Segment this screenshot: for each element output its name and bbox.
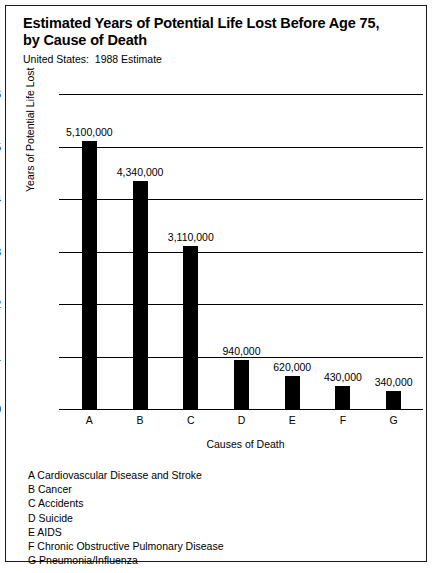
gridline [68, 147, 423, 148]
y-tick-mark [59, 199, 68, 200]
x-tick-label-b: B [137, 415, 144, 426]
y-tick-label: 6 [0, 89, 1, 99]
y-tick-mark [59, 304, 68, 305]
x-tick-label-f: F [340, 415, 346, 426]
y-tick-label: 3 [0, 247, 1, 257]
gridline [68, 94, 423, 95]
bar-c [183, 246, 198, 409]
x-axis-title: Causes of Death [68, 438, 423, 450]
x-tick-label-d: D [238, 415, 246, 426]
gridline [68, 199, 423, 200]
legend-item-a: A Cardiovascular Disease and Stroke [28, 468, 408, 482]
bar-f [335, 386, 350, 409]
gridline [68, 252, 423, 253]
legend-item-b: B Cancer [28, 482, 408, 496]
x-tick-label-c: C [187, 415, 195, 426]
bar-value-label: 5,100,000 [66, 127, 113, 138]
y-axis-title: Years of Potential Life Lost [24, 67, 36, 192]
y-tick-label: 5 [0, 142, 1, 152]
page-title: Estimated Years of Potential Life Lost B… [23, 15, 415, 49]
bar-a [82, 141, 97, 409]
y-tick-label: 4 [0, 194, 1, 204]
legend-item-f: F Chronic Obstructive Pulmonary Disease [28, 539, 408, 553]
bar-g [386, 391, 401, 409]
plot-area: 01234565,100,000A4,340,000B3,110,000C940… [68, 94, 423, 409]
x-axis-line [68, 409, 423, 410]
y-tick-mark [59, 94, 68, 95]
y-tick-label: 2 [0, 299, 1, 309]
gridline [68, 304, 423, 305]
y-tick-mark [59, 357, 68, 358]
legend-item-g: G Pneumonia/Influenza [28, 553, 408, 567]
bar-value-label: 4,340,000 [117, 167, 164, 178]
legend-item-d: D Suicide [28, 511, 408, 525]
bar-value-label: 340,000 [375, 377, 413, 388]
bar-value-label: 3,110,000 [168, 232, 214, 243]
bar-e [285, 376, 300, 409]
gridline [68, 357, 423, 358]
bar-d [234, 360, 249, 409]
chart-figure: Estimated Years of Potential Life Lost B… [5, 5, 427, 562]
x-tick-label-g: G [390, 415, 398, 426]
chart-header: Estimated Years of Potential Life Lost B… [23, 15, 415, 65]
y-tick-label: 1 [0, 352, 1, 362]
legend-item-c: C Accidents [28, 496, 408, 510]
y-tick-label: 0 [0, 404, 1, 414]
bar-value-label: 940,000 [223, 346, 261, 357]
y-tick-mark [59, 252, 68, 253]
bar-value-label: 430,000 [324, 372, 362, 383]
y-tick-mark [59, 147, 68, 148]
chart-subtitle: United States: 1988 Estimate [23, 53, 415, 65]
x-tick-label-a: A [86, 415, 93, 426]
legend-item-e: E AIDS [28, 525, 408, 539]
y-tick-mark [59, 409, 68, 410]
chart-legend: A Cardiovascular Disease and StrokeB Can… [28, 468, 408, 567]
bar-b [133, 181, 148, 409]
bar-value-label: 620,000 [273, 362, 311, 373]
x-tick-label-e: E [289, 415, 296, 426]
